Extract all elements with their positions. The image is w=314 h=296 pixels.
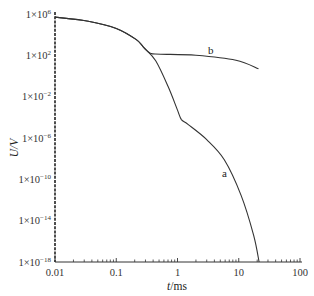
- y-tick-label: 1×10−10: [18, 173, 51, 185]
- y-ticks: 1×1061×1021×10−21×10−61×10−101×10−141×10…: [18, 8, 51, 268]
- y-axis-title: U/V: [8, 137, 20, 158]
- y-tick-label: 1×10−14: [18, 214, 51, 226]
- y-tick-label: 1×10−6: [22, 132, 52, 144]
- x-tick-label: 10: [234, 267, 245, 278]
- y-tick-label: 1×102: [26, 49, 52, 61]
- x-ticks: 0.010.1110100: [46, 258, 308, 278]
- y-tick-label: 1×106: [26, 8, 52, 20]
- x-axis-title: t/ms: [167, 280, 187, 292]
- curve-label-a: a: [222, 167, 227, 179]
- x-tick-label: 100: [292, 267, 308, 278]
- chart-svg: 0.010.1110100 1×1061×1021×10−21×10−61×10…: [0, 0, 314, 296]
- curve-b: [55, 17, 259, 69]
- x-tick-label: 0.01: [46, 267, 64, 278]
- curves: [55, 17, 259, 262]
- y-tick-label: 1×10−2: [22, 90, 52, 102]
- x-tick-label: 1: [175, 267, 180, 278]
- curve-label-b: b: [208, 44, 214, 56]
- y-tick-label: 1×10−18: [18, 256, 51, 268]
- x-tick-label: 0.1: [110, 267, 123, 278]
